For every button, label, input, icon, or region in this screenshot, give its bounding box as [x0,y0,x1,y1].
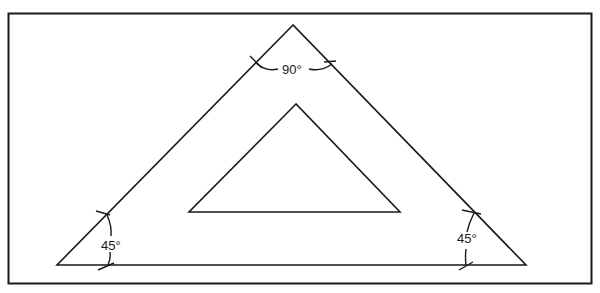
right-angle-marker: 45° [457,210,481,270]
angle-label-left: 45° [101,238,121,253]
inner-triangle [189,104,400,212]
tick-mark [324,61,336,62]
left-angle-marker: 45° [96,211,121,270]
triangle-diagram: 90° 45° 45° [0,0,600,293]
angle-label-top: 90° [282,62,302,77]
top-angle-marker: 90° [250,56,336,77]
tick-mark [98,263,114,270]
tick-mark [462,210,481,214]
angle-label-right: 45° [457,231,477,246]
outer-triangle [57,25,526,265]
